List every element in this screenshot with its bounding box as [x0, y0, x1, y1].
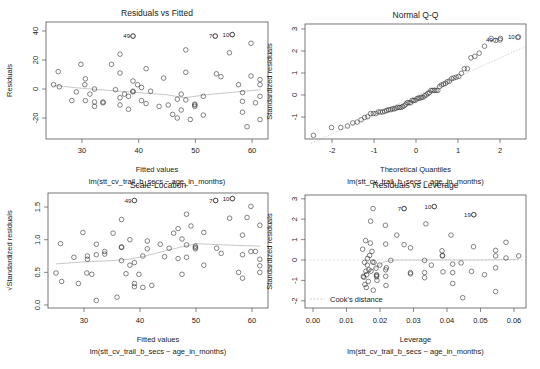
data-point	[118, 52, 123, 57]
y-tick-label: 2	[290, 217, 299, 221]
y-tick-label: 1.0	[33, 234, 42, 244]
point-label: 10	[425, 204, 432, 210]
data-point	[83, 98, 88, 103]
data-point	[516, 254, 521, 259]
data-point	[176, 226, 181, 231]
data-point	[258, 94, 263, 99]
data-point	[157, 104, 162, 109]
data-point	[202, 230, 207, 235]
panel-title: Normal Q-Q	[393, 10, 439, 20]
data-point	[94, 298, 99, 303]
data-point	[368, 241, 373, 246]
data-point	[383, 274, 388, 279]
data-point	[81, 230, 86, 235]
x-tick-label: 0.00	[306, 316, 321, 325]
data-point	[184, 48, 189, 53]
data-point	[179, 108, 184, 113]
data-point	[158, 242, 163, 247]
data-point	[384, 283, 389, 288]
data-point	[132, 284, 137, 289]
data-point	[88, 92, 93, 97]
data-point	[311, 133, 316, 138]
data-point	[408, 246, 413, 251]
point-label: 7	[398, 206, 402, 212]
data-point	[258, 117, 263, 122]
labeled-point	[131, 34, 136, 39]
data-point	[118, 71, 123, 76]
y-tick-label: 0	[31, 87, 40, 91]
y-tick-label: 40	[31, 27, 40, 35]
panel-title: Residuals vs Leverage	[373, 180, 459, 190]
data-point	[139, 85, 144, 90]
data-point	[94, 252, 99, 257]
data-point	[422, 270, 427, 275]
data-point	[366, 279, 371, 284]
panel-title: Residuals vs Fitted	[121, 8, 193, 18]
data-point	[118, 103, 123, 108]
data-point	[58, 241, 63, 246]
point-label: 7	[209, 198, 213, 204]
data-point	[214, 246, 219, 251]
data-point	[258, 223, 263, 228]
data-point	[240, 99, 245, 104]
y-tick-label: 2	[290, 49, 299, 53]
data-point	[383, 242, 388, 247]
data-point	[249, 41, 254, 46]
data-point	[371, 288, 376, 293]
labeled-point	[213, 34, 218, 39]
data-point	[368, 111, 373, 116]
x-axis-label: Theoretical Quantiles	[380, 165, 451, 174]
data-point	[450, 262, 455, 267]
data-point	[236, 82, 241, 87]
data-point	[469, 269, 474, 274]
data-point	[171, 231, 176, 236]
plot-frame	[305, 195, 526, 308]
data-point	[477, 51, 482, 56]
data-point	[258, 257, 263, 262]
data-point	[83, 82, 88, 87]
data-point	[90, 272, 95, 277]
data-point	[189, 224, 194, 229]
data-point	[450, 281, 455, 286]
data-point	[383, 223, 388, 228]
data-point	[111, 231, 116, 236]
data-point	[54, 271, 59, 276]
data-point	[395, 233, 400, 238]
point-label: 10	[508, 34, 515, 40]
data-point	[371, 206, 376, 211]
point-label: 49	[486, 37, 493, 43]
data-point	[102, 249, 107, 254]
data-point	[74, 90, 79, 95]
data-point	[370, 249, 375, 254]
labeled-point	[132, 198, 137, 203]
x-tick-label: 50	[191, 146, 199, 155]
data-point	[128, 237, 133, 242]
data-point	[504, 240, 509, 245]
y-tick-label: 3	[290, 27, 299, 31]
x-tick-label: 60	[248, 146, 256, 155]
data-point	[450, 270, 455, 275]
data-point	[201, 94, 206, 99]
x-tick-label: 0.04	[440, 316, 455, 325]
model-subtitle: lm(stt_cv_trail_b_secs ~ age_in_months)	[90, 347, 227, 356]
data-point	[184, 255, 189, 260]
panel-2: Normal Q-Q49710-2-1012-10123Theoretical …	[265, 10, 526, 186]
y-tick-label: -2	[290, 297, 299, 304]
x-tick-label: 60	[248, 316, 256, 325]
data-point	[92, 100, 97, 105]
y-axis-label: Standardized residuals	[265, 213, 274, 290]
y-tick-label: 1	[290, 71, 299, 75]
data-point	[141, 285, 146, 290]
data-point	[240, 110, 245, 115]
data-point	[329, 125, 334, 130]
data-point	[184, 98, 189, 103]
data-point	[139, 98, 144, 103]
y-tick-label: 0	[290, 93, 299, 97]
data-point	[364, 285, 369, 290]
data-point	[473, 54, 478, 59]
data-point	[76, 281, 81, 286]
data-point	[83, 77, 88, 82]
data-point	[227, 216, 232, 221]
data-point	[188, 117, 193, 122]
y-axis-label: Standardized residuals	[265, 43, 274, 120]
